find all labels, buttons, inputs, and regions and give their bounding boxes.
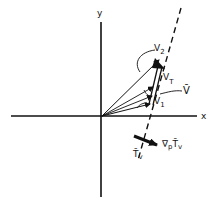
y-axis-label: y (97, 9, 102, 18)
v2-label: V2 (154, 44, 165, 56)
vector-v1 (102, 104, 150, 116)
vt-label: VT (163, 73, 173, 86)
v1-label: V1 (154, 97, 165, 109)
isotherm-dashed-line (138, 8, 181, 160)
hodograph-diagram (0, 0, 217, 205)
isotherm-label: T̄v (133, 150, 143, 161)
vbar-label: V̄ (183, 86, 190, 96)
gradient-arrow (134, 136, 157, 145)
gradient-label: ∇pT̄v (162, 140, 182, 151)
x-axis-label: x (201, 112, 206, 121)
